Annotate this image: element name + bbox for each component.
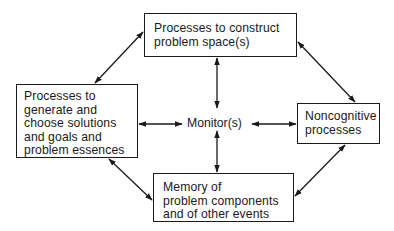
arrow-left-top (95, 32, 143, 83)
node-monitors: Monitor(s) (187, 116, 242, 130)
node-memory: Memory of problem components and of othe… (153, 173, 294, 222)
node-text-line: Noncognitive (305, 110, 379, 124)
arrow-bottom-right (295, 145, 345, 196)
arrow-top-right (298, 42, 355, 102)
arrow-left-bottom (109, 159, 152, 200)
node-text-line: generate and (24, 104, 137, 118)
node-generate-solutions: Processes to generate and choose solutio… (16, 84, 138, 158)
node-text-line: problem space(s) (154, 36, 296, 50)
node-text-line: Processes to construct (154, 22, 296, 36)
node-noncognitive-processes: Noncognitive processes (297, 103, 380, 144)
node-text-line: problem essences (24, 144, 137, 158)
node-text-line: problem components (163, 195, 293, 209)
diagram-canvas: Processes to construct problem space(s) … (0, 0, 394, 231)
node-text-line: and of other events (163, 208, 293, 222)
node-construct-problem-space: Processes to construct problem space(s) (144, 13, 297, 57)
node-text-line: Processes to (24, 90, 137, 104)
node-text-line: choose solutions (24, 117, 137, 131)
node-text-line: processes (305, 124, 379, 138)
node-text-line: Memory of (163, 181, 293, 195)
node-text-line: and goals and (24, 131, 137, 145)
